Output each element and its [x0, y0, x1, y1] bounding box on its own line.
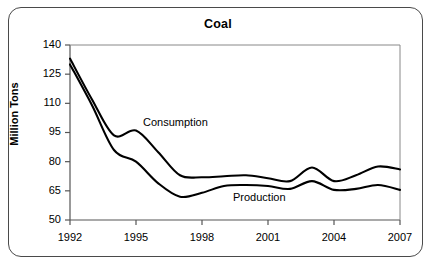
x-tick-label-2004: 2004 — [312, 231, 356, 243]
x-tick-label-1992: 1992 — [48, 231, 92, 243]
plot-area — [0, 0, 433, 270]
y-tick-label-95: 95 — [35, 125, 61, 137]
x-tick-label-1995: 1995 — [114, 231, 158, 243]
y-tick-label-125: 125 — [35, 67, 61, 79]
x-tick-label-2001: 2001 — [246, 231, 290, 243]
consumption-series-label: Consumption — [143, 116, 208, 128]
y-tick-label-50: 50 — [35, 213, 61, 225]
x-tick-label-2007: 2007 — [378, 231, 422, 243]
y-tick-label-110: 110 — [35, 96, 61, 108]
series-line-consumption — [70, 59, 400, 182]
x-tick-marks — [70, 220, 400, 225]
y-tick-label-80: 80 — [35, 155, 61, 167]
y-tick-label-65: 65 — [35, 184, 61, 196]
y-tick-marks — [65, 45, 70, 220]
coal-chart-figure: Coal Million Tons — [0, 0, 433, 270]
x-tick-label-1998: 1998 — [180, 231, 224, 243]
y-tick-label-140: 140 — [35, 38, 61, 50]
production-series-label: Production — [233, 191, 286, 203]
